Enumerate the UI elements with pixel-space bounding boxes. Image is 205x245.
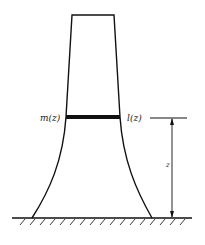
- tower-left-flare: [32, 117, 66, 218]
- section-bar: [66, 115, 120, 119]
- arrowhead-up-icon: [170, 118, 174, 125]
- tower-upper-shaft: [66, 15, 120, 117]
- stiffness-label: l(z): [127, 113, 142, 123]
- tower-diagram: m(z) l(z) z: [0, 0, 205, 245]
- height-label: z: [165, 161, 170, 169]
- arrowhead-down-icon: [170, 211, 174, 218]
- mass-label: m(z): [40, 113, 61, 123]
- ground-hatching: [20, 219, 185, 225]
- tower-right-flare: [120, 117, 152, 218]
